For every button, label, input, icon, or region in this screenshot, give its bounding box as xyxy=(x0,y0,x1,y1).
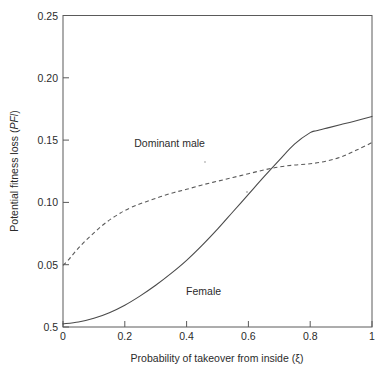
y-tick-labels: 0.5 0.05 0.10 0.15 0.20 0.25 xyxy=(38,10,59,334)
y-tick-label: 0.5 xyxy=(43,321,58,333)
y-tick-label: 0.05 xyxy=(38,259,59,271)
x-tick-label: 0.4 xyxy=(179,330,194,342)
y-axis-title-prefix: Potential fitness loss ( xyxy=(8,129,20,232)
line-chart: 0 0.2 0.4 0.6 0.8 1 0.5 0.05 0.10 0.15 0… xyxy=(0,0,385,375)
y-tick-label: 0.10 xyxy=(38,196,59,208)
scan-speck xyxy=(246,191,248,193)
x-tick-label: 0.2 xyxy=(117,330,132,342)
figure-container: 0 0.2 0.4 0.6 0.8 1 0.5 0.05 0.10 0.15 0… xyxy=(0,0,385,375)
y-tick-label: 0.15 xyxy=(38,134,59,146)
x-tick-labels: 0 0.2 0.4 0.6 0.8 1 xyxy=(60,330,375,342)
y-axis-title-emphasis: PFl xyxy=(8,113,20,129)
annotation-female: Female xyxy=(186,285,221,297)
x-tick-label: 1 xyxy=(369,330,375,342)
x-tick-label: 0 xyxy=(60,330,66,342)
x-tick-marks xyxy=(63,321,372,327)
plot-frame xyxy=(63,16,372,328)
y-tick-label: 0.20 xyxy=(38,72,59,84)
scan-speck xyxy=(204,161,206,163)
annotation-dominant-male: Dominant male xyxy=(134,137,205,149)
y-axis-title: Potential fitness loss (PFl) xyxy=(8,110,20,231)
x-axis-title: Probability of takeover from inside (ξ) xyxy=(131,352,304,364)
x-tick-label: 0.8 xyxy=(303,330,318,342)
y-tick-label: 0.25 xyxy=(38,10,59,22)
x-tick-label: 0.6 xyxy=(241,330,256,342)
y-axis-title-suffix: ) xyxy=(8,110,20,114)
series-dominant-male-line xyxy=(63,143,372,266)
y-tick-marks xyxy=(63,16,69,328)
